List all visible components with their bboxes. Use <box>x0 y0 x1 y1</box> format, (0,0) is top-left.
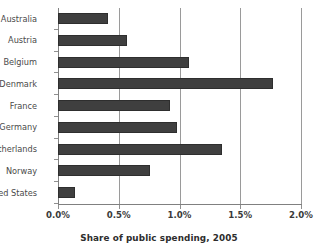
category-label-netherlands: Netherlands <box>0 144 37 154</box>
bar-chart: AustraliaAustriaBelgiumDenmarkFranceGerm… <box>0 0 318 252</box>
bar-netherlands <box>58 144 222 155</box>
x-axis-tick <box>301 205 302 209</box>
category-label-france: France <box>10 101 37 111</box>
bar-norway <box>58 165 150 176</box>
x-axis-label-2-0pct: 2.0% <box>289 210 313 220</box>
x-axis-tick <box>58 205 59 209</box>
bar-belgium <box>58 57 189 68</box>
bar-austria <box>58 35 127 46</box>
bar-row: Austria <box>58 30 301 52</box>
category-label-austria: Austria <box>8 35 37 45</box>
gridline <box>301 8 302 204</box>
category-label-denmark: Denmark <box>0 79 37 89</box>
bar-australia <box>58 13 108 24</box>
category-label-australia: Australia <box>1 14 37 24</box>
bar-row: Denmark <box>58 73 301 95</box>
bar-row: Australia <box>58 8 301 30</box>
x-axis-label-1-0pct: 1.0% <box>168 210 192 220</box>
bar-denmark <box>58 78 273 89</box>
bar-germany <box>58 122 177 133</box>
bar-row: Germany <box>58 117 301 139</box>
category-label-norway: Norway <box>6 166 37 176</box>
bar-united-states <box>58 187 75 198</box>
bar-row: Norway <box>58 160 301 182</box>
x-axis-label-0-5pct: 0.5% <box>107 210 131 220</box>
x-axis-tick <box>180 205 181 209</box>
bar-row: France <box>58 95 301 117</box>
bar-row: Belgium <box>58 52 301 74</box>
plot-area: AustraliaAustriaBelgiumDenmarkFranceGerm… <box>58 8 301 204</box>
x-axis-tick <box>119 205 120 209</box>
x-axis-title: Share of public spending, 2005 <box>0 233 318 243</box>
x-axis-label-1-5pct: 1.5% <box>228 210 252 220</box>
category-label-united-states: United States <box>0 188 37 198</box>
y-axis-tick <box>54 203 58 204</box>
bar-france <box>58 100 170 111</box>
x-axis-label-0-0pct: 0.0% <box>46 210 70 220</box>
category-label-belgium: Belgium <box>3 57 37 67</box>
bar-row: Netherlands <box>58 139 301 161</box>
category-label-germany: Germany <box>0 122 37 132</box>
x-axis-tick <box>240 205 241 209</box>
bar-row: United States <box>58 182 301 204</box>
